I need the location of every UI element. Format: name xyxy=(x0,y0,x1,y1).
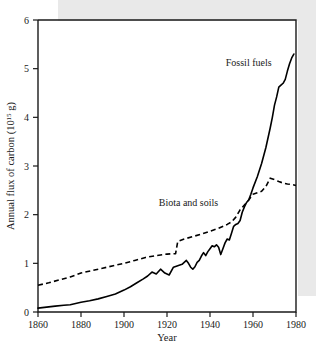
annotation-fossil-fuels: Fossil fuels xyxy=(226,57,272,68)
x-axis-ticks xyxy=(38,312,296,317)
y-tick-label-6: 6 xyxy=(24,15,29,26)
series-line-biota-and-soils xyxy=(38,178,296,285)
y-tick-label-0: 0 xyxy=(24,307,29,318)
annotation-biota-and-soils: Biota and soils xyxy=(159,197,219,208)
x-axis-title: Year xyxy=(157,332,177,343)
x-tick-label-1960: 1960 xyxy=(243,319,263,330)
y-tick-label-3: 3 xyxy=(24,161,29,172)
x-tick-label-1880: 1880 xyxy=(71,319,91,330)
x-tick-label-1940: 1940 xyxy=(200,319,220,330)
y-axis-title: Annual flux of carbon (1015 g) xyxy=(5,101,18,230)
figure-carbon-flux: 1860188019001920194019601980 0123456 Fos… xyxy=(0,0,316,350)
chart-canvas: 1860188019001920194019601980 0123456 Fos… xyxy=(0,0,316,350)
x-tick-label-1900: 1900 xyxy=(114,319,134,330)
series-line-fossil-fuels xyxy=(38,54,294,308)
y-tick-label-1: 1 xyxy=(24,258,29,269)
y-axis-ticks xyxy=(33,20,38,312)
y-tick-label-4: 4 xyxy=(24,112,29,123)
y-axis-tick-labels: 0123456 xyxy=(24,15,29,318)
y-tick-label-2: 2 xyxy=(24,209,29,220)
x-tick-label-1920: 1920 xyxy=(157,319,177,330)
x-tick-label-1860: 1860 xyxy=(28,319,48,330)
x-axis-tick-labels: 1860188019001920194019601980 xyxy=(28,319,306,330)
x-tick-label-1980: 1980 xyxy=(286,319,306,330)
y-tick-label-5: 5 xyxy=(24,63,29,74)
